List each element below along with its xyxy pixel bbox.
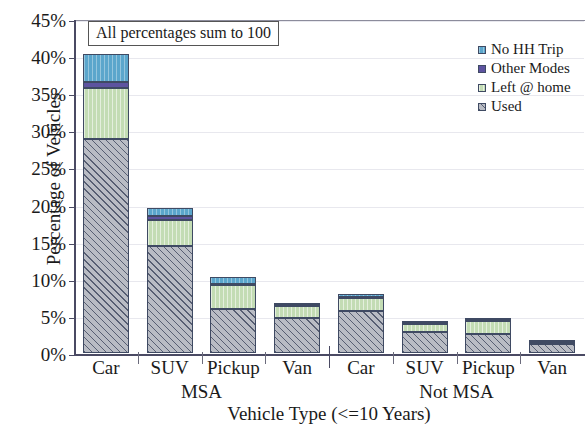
y-axis-tick-label: 25% — [31, 158, 74, 180]
bar-segment-no-hh-trip[interactable] — [338, 294, 384, 298]
y-axis-tick-label: 10% — [31, 270, 74, 292]
bar-segment-no-hh-trip[interactable] — [465, 318, 511, 320]
stacked-bar-van-7[interactable] — [529, 342, 575, 353]
x-axis-title: Vehicle Type (<=10 Years) — [74, 403, 584, 425]
stacked-bar-suv-1[interactable] — [147, 208, 193, 353]
bar-segment-used[interactable] — [402, 332, 448, 353]
stacked-bar-car-4[interactable] — [338, 294, 384, 353]
y-axis-tick-label: 15% — [31, 233, 74, 255]
bar-segment-no-hh-trip[interactable] — [210, 277, 256, 284]
bar-segment-other-modes[interactable] — [83, 82, 129, 88]
bar-segment-used[interactable] — [529, 344, 575, 353]
y-axis-line — [74, 20, 76, 356]
bar-segment-used[interactable] — [338, 311, 384, 353]
stacked-bar-suv-5[interactable] — [402, 322, 448, 353]
x-axis-label-pickup-2: Pickup — [202, 357, 266, 379]
legend-item-no-hh-trip[interactable]: No HH Trip — [478, 40, 571, 59]
legend-item-left-home[interactable]: Left @ home — [478, 78, 571, 97]
y-axis-tick-mark — [69, 318, 75, 319]
bar-segment-used[interactable] — [465, 334, 511, 353]
bar-segment-used[interactable] — [210, 309, 256, 353]
gridline — [76, 132, 584, 133]
bar-segment-no-hh-trip[interactable] — [529, 340, 575, 342]
stacked-bar-pickup-2[interactable] — [210, 277, 256, 353]
y-axis-tick-label: 20% — [31, 196, 74, 218]
y-axis-tick-mark — [69, 58, 75, 59]
legend-swatch-icon — [478, 84, 486, 92]
y-axis-tick-mark — [69, 21, 75, 22]
legend-swatch-icon — [478, 46, 486, 54]
bar-segment-used[interactable] — [83, 139, 129, 354]
y-axis-tick-mark — [69, 281, 75, 282]
x-axis-group-label-not-msa: Not MSA — [329, 381, 584, 403]
gridline — [76, 169, 584, 170]
x-axis-label-car-4: Car — [329, 357, 393, 379]
bar-segment-left-home[interactable] — [402, 324, 448, 332]
x-axis-label-pickup-6: Pickup — [457, 357, 521, 379]
bar-segment-no-hh-trip[interactable] — [402, 321, 448, 323]
stacked-bar-van-3[interactable] — [274, 304, 320, 353]
legend-item-label: Used — [491, 97, 522, 116]
x-axis-label-car-0: Car — [74, 357, 138, 379]
x-axis-label-suv-5: SUV — [393, 357, 457, 379]
y-axis-tick-mark — [69, 207, 75, 208]
legend-item-used[interactable]: Used — [478, 97, 571, 116]
legend-item-other-modes[interactable]: Other Modes — [478, 59, 571, 78]
bar-segment-no-hh-trip[interactable] — [274, 303, 320, 305]
bar-segment-left-home[interactable] — [338, 298, 384, 311]
bar-segment-left-home[interactable] — [210, 285, 256, 309]
y-axis-tick-mark — [69, 244, 75, 245]
y-axis-tick-mark — [69, 132, 75, 133]
y-axis-tick-mark — [69, 169, 75, 170]
x-axis-label-suv-1: SUV — [138, 357, 202, 379]
legend-swatch-icon — [478, 103, 486, 111]
x-axis-label-van-7: Van — [520, 357, 584, 379]
x-axis-label-van-3: Van — [265, 357, 329, 379]
bar-segment-left-home[interactable] — [274, 306, 320, 318]
bar-segment-used[interactable] — [274, 318, 320, 353]
y-axis-tick-label: 30% — [31, 121, 74, 143]
bar-segment-no-hh-trip[interactable] — [147, 208, 193, 217]
chart-legend: No HH TripOther ModesLeft @ homeUsed — [478, 40, 571, 116]
stacked-bar-car-0[interactable] — [83, 54, 129, 353]
x-axis-group-label-msa: MSA — [74, 381, 329, 403]
legend-item-label: No HH Trip — [491, 40, 564, 59]
bar-segment-left-home[interactable] — [147, 220, 193, 246]
annotation-box: All percentages sum to 100 — [88, 21, 279, 46]
bar-segment-other-modes[interactable] — [147, 216, 193, 220]
y-axis-tick-label: 35% — [31, 84, 74, 106]
y-axis-tick-mark — [69, 95, 75, 96]
y-axis-tick-label: 40% — [31, 47, 74, 69]
bar-segment-used[interactable] — [147, 246, 193, 353]
stacked-bar-pickup-6[interactable] — [465, 318, 511, 353]
bar-segment-left-home[interactable] — [465, 321, 511, 334]
y-axis-tick-label: 45% — [31, 10, 74, 32]
legend-swatch-icon — [478, 65, 486, 73]
bar-segment-no-hh-trip[interactable] — [83, 54, 129, 82]
legend-item-label: Other Modes — [491, 59, 570, 78]
bar-segment-left-home[interactable] — [83, 88, 129, 138]
stacked-bar-chart: Percentage of Vehicles 0%5%10%15%20%25%3… — [0, 0, 588, 430]
legend-item-label: Left @ home — [491, 78, 571, 97]
y-axis-tick-mark — [69, 355, 75, 356]
